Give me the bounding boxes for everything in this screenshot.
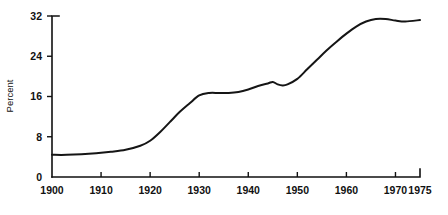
x-tick-label: 1975: [408, 184, 432, 196]
y-axis-title: Percent: [4, 79, 15, 112]
x-axis-line: [52, 169, 420, 177]
y-axis-group: 08162432 Percent: [4, 10, 59, 183]
x-tick-label: 1970: [384, 184, 408, 196]
x-tick-label: 1920: [138, 184, 162, 196]
chart-container: 08162432 Percent 19001910192019301940195…: [0, 0, 448, 215]
y-axis-line: [52, 16, 59, 177]
y-tick-label: 24: [30, 50, 42, 62]
x-tick-labels: 190019101920193019401950196019701975: [40, 184, 432, 196]
series-line-percent: [52, 19, 420, 155]
y-tick-label: 32: [30, 10, 42, 22]
y-tick-label: 16: [30, 90, 42, 102]
x-tick-label: 1900: [40, 184, 64, 196]
y-tick-labels: 08162432: [30, 10, 42, 183]
x-tick-label: 1910: [89, 184, 113, 196]
line-chart: 08162432 Percent 19001910192019301940195…: [0, 0, 448, 215]
x-tick-label: 1940: [237, 184, 261, 196]
x-tick-label: 1950: [286, 184, 310, 196]
x-axis-group: 190019101920193019401950196019701975: [40, 169, 432, 196]
x-tick-label: 1930: [188, 184, 212, 196]
plot-area: [52, 19, 420, 155]
y-tick-label: 0: [36, 171, 42, 183]
x-tick-label: 1960: [335, 184, 359, 196]
y-tick-label: 8: [36, 131, 42, 143]
